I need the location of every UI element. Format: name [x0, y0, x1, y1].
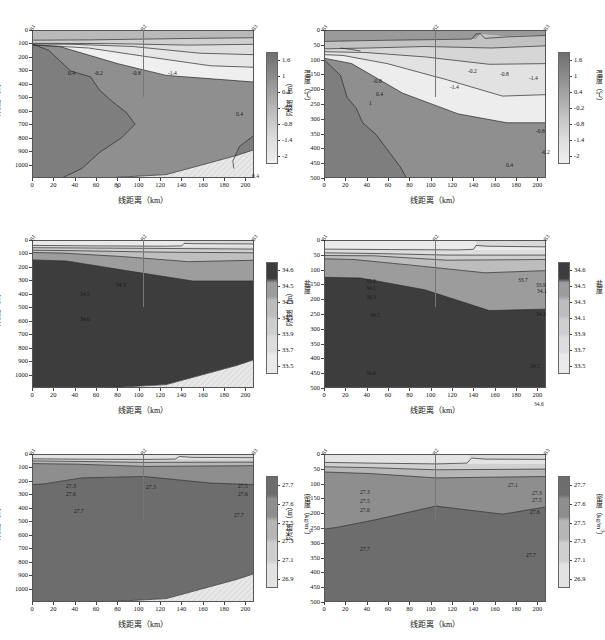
panel-dens-shallow: 27.127.327.327.527.527.627.627.727.70501…: [292, 420, 585, 640]
y-axis-tick-label: 0: [298, 26, 320, 33]
colorbar-tick-label: -1.4: [282, 136, 292, 143]
y-axis-tick-label: 50: [298, 41, 320, 48]
contour-label: -0.8: [500, 71, 509, 77]
x-axis-tick-label: 60: [378, 391, 398, 398]
x-axis-tick: [495, 178, 496, 181]
x-axis-tick-label: 100: [129, 391, 149, 398]
x-axis-tick-label: 140: [463, 605, 483, 612]
y-axis-tick-label: 100: [298, 266, 320, 273]
panel-dens-deep: 27.327.327.527.627.627.727.7010020030040…: [0, 420, 292, 640]
colorbar-tick-label: -0.2: [574, 104, 584, 111]
y-axis-tick-label: 200: [6, 477, 28, 484]
y-axis-tick-label: 450: [298, 583, 320, 590]
colorbar-tick: [278, 76, 280, 77]
x-axis-tick: [203, 178, 204, 181]
x-axis-tick: [537, 178, 538, 181]
y-axis-tick: [321, 587, 324, 588]
y-axis-tick-label: 300: [6, 490, 28, 497]
y-axis-tick-label: 200: [6, 53, 28, 60]
colorbar-tick-label: 1.6: [282, 56, 290, 63]
y-axis-tick-label: 0: [298, 450, 320, 457]
x-axis-label: 线距离（km）: [98, 618, 188, 629]
colorbar-tick-label: -1.4: [574, 136, 584, 143]
x-axis-tick-label: 80: [399, 391, 419, 398]
x-axis-tick-label: 200: [527, 181, 547, 188]
station-marker: [435, 240, 436, 307]
y-axis-tick: [321, 148, 324, 149]
colorbar-tick: [278, 140, 280, 141]
x-axis-tick: [324, 178, 325, 181]
x-axis-label: 线距离（km）: [98, 404, 188, 415]
colorbar-label: 温度（℃）: [594, 70, 604, 105]
colorbar-tick: [570, 366, 572, 367]
x-axis-tick: [473, 178, 474, 181]
x-axis-tick: [53, 602, 54, 605]
x-axis-tick-label: 160: [485, 181, 505, 188]
y-axis-tick: [321, 89, 324, 90]
y-axis-tick-label: 250: [298, 524, 320, 531]
contour-label: 27.3: [146, 484, 156, 490]
x-axis-tick: [388, 178, 389, 181]
y-axis-tick-label: 300: [6, 276, 28, 283]
x-axis-tick: [160, 388, 161, 391]
x-axis-tick-label: 180: [214, 605, 234, 612]
panel-salt-shallow: 33.933.734.133.934.134.334.334.534.534.6…: [292, 210, 585, 420]
contour-label: 34.5: [80, 291, 90, 297]
contour-label: -0.8: [373, 78, 382, 84]
contour-label: 34.1: [366, 285, 376, 291]
x-axis-tick: [160, 178, 161, 181]
x-axis-tick-label: 20: [335, 391, 355, 398]
y-axis-tick-label: 400: [298, 354, 320, 361]
y-axis-tick-label: 400: [298, 568, 320, 575]
y-axis-tick-label: 100: [6, 39, 28, 46]
contour-label: 34.6: [366, 370, 376, 376]
y-axis-tick: [321, 119, 324, 120]
colorbar-tick-label: 1: [574, 72, 577, 79]
contour-label: 27.1: [508, 482, 518, 488]
contour-label: 0.4: [252, 173, 259, 179]
contour-label: 27.3: [532, 490, 542, 496]
y-axis-tick: [321, 373, 324, 374]
y-axis-tick-label: 100: [6, 463, 28, 470]
x-axis-tick-label: 120: [442, 181, 462, 188]
contour-label: 0.4: [376, 91, 383, 97]
contour-label: 34.6: [534, 401, 544, 407]
y-axis-tick-label: 600: [6, 531, 28, 538]
x-axis-tick-label: 60: [86, 391, 106, 398]
y-axis-tick-label: 200: [298, 85, 320, 92]
y-axis-tick-label: 600: [6, 107, 28, 114]
y-axis-tick: [321, 60, 324, 61]
x-axis-tick: [96, 602, 97, 605]
x-axis-tick: [75, 602, 76, 605]
colorbar-tick: [570, 560, 572, 561]
station-marker: [143, 454, 144, 521]
y-axis-tick: [29, 294, 32, 295]
y-axis-tick: [29, 280, 32, 281]
y-axis-tick: [29, 562, 32, 563]
y-axis-label: 深度（m）: [0, 502, 3, 540]
contour-label: -1.4: [529, 75, 538, 81]
y-axis-tick: [321, 270, 324, 271]
y-axis-tick-label: 350: [298, 340, 320, 347]
contour-label: -0.8: [536, 128, 545, 134]
contour-label: 34.3: [116, 282, 126, 288]
x-axis-tick: [495, 388, 496, 391]
x-axis-tick: [224, 178, 225, 181]
colorbar-salt-deep: [266, 262, 278, 374]
colorbar-dens-deep: [266, 476, 278, 588]
x-axis-tick-label: 180: [214, 181, 234, 188]
colorbar-tick: [570, 76, 572, 77]
x-axis-tick: [367, 178, 368, 181]
y-axis-tick: [29, 508, 32, 509]
contour-label: 33.9: [366, 278, 376, 284]
contour-label: 27.3: [66, 483, 76, 489]
y-axis-tick: [29, 321, 32, 322]
x-axis-tick: [139, 602, 140, 605]
x-axis-tick-label: 60: [378, 605, 398, 612]
x-axis-tick-label: 100: [421, 181, 441, 188]
y-axis-tick: [321, 314, 324, 315]
y-axis-tick-label: 500: [298, 598, 320, 605]
y-axis-tick-label: 500: [298, 384, 320, 391]
x-axis-tick: [75, 388, 76, 391]
y-axis-tick-label: 700: [6, 544, 28, 551]
